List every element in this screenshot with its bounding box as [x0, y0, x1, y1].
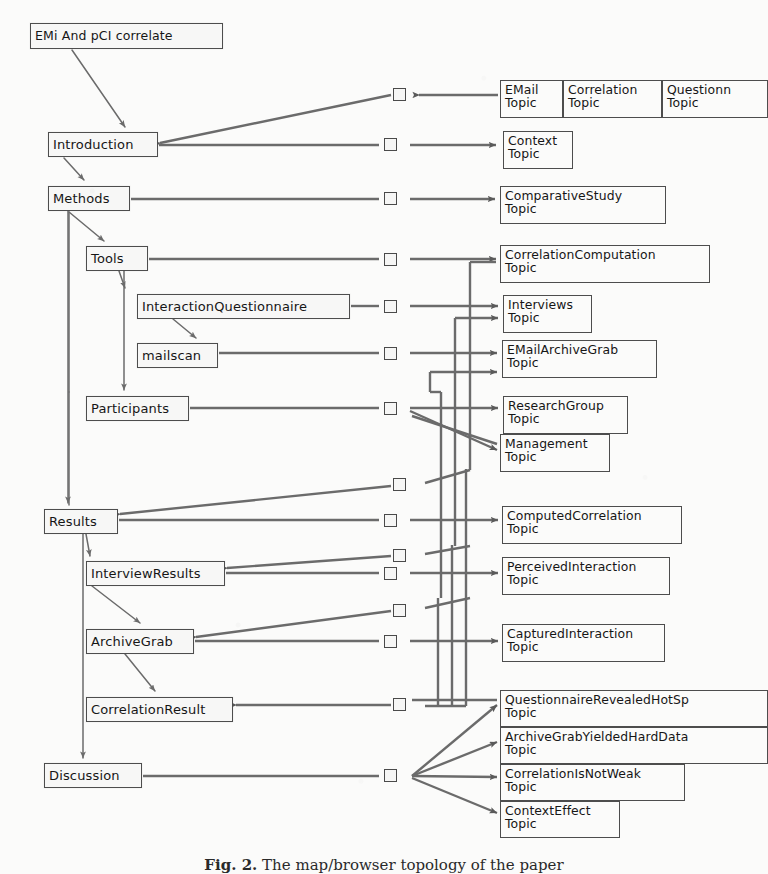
topic-context-effect[interactable]: ContextEffect Topic [500, 801, 620, 838]
topic-questionnaire-revealed-hotspot-kind: Topic [505, 707, 767, 719]
topic-research-group-kind: Topic [508, 413, 627, 425]
topic-questionnaire-revealed-hotspot-name: QuestionnaireRevealedHotSp [505, 694, 767, 706]
node-results[interactable]: Results [44, 509, 118, 534]
figure-caption-text: The map/browser topology of the paper [262, 856, 564, 874]
port-results-in[interactable] [393, 478, 406, 491]
topic-correlation[interactable]: Correlation Topic [563, 80, 662, 118]
topic-computed-correlation-kind: Topic [507, 523, 681, 535]
topic-management[interactable]: Management Topic [500, 434, 610, 472]
topic-captured-interaction[interactable]: CapturedInteraction Topic [502, 624, 665, 662]
port-introduction-out[interactable] [384, 138, 397, 151]
topic-email-kind: Topic [505, 97, 562, 109]
topic-comparative-study-kind: Topic [505, 203, 665, 215]
node-interaction-questionnaire-label: InteractionQuestionnaire [142, 300, 307, 314]
topic-correlation-kind: Topic [568, 97, 661, 109]
node-mailscan-label: mailscan [142, 349, 201, 363]
topic-interviews[interactable]: Interviews Topic [503, 295, 592, 333]
node-correlation-result-label: CorrelationResult [91, 703, 205, 717]
port-participants-out[interactable] [384, 402, 397, 415]
port-mailscan-out[interactable] [384, 347, 397, 360]
port-interactionq-out[interactable] [384, 300, 397, 313]
port-methods-out[interactable] [384, 192, 397, 205]
node-tools[interactable]: Tools [86, 246, 148, 271]
topic-questionnaire-revealed-hotspot[interactable]: QuestionnaireRevealedHotSp Topic [500, 690, 768, 727]
port-tools-out[interactable] [384, 253, 397, 266]
topic-correlation-computation[interactable]: CorrelationComputation Topic [500, 245, 710, 283]
node-introduction[interactable]: Introduction [48, 132, 158, 157]
topic-context-kind: Topic [508, 148, 572, 160]
node-root-label: EMi And pCI correlate [35, 29, 173, 42]
node-introduction-label: Introduction [53, 138, 134, 152]
node-root[interactable]: EMi And pCI correlate [30, 23, 223, 49]
node-interview-results[interactable]: InterviewResults [86, 561, 225, 586]
topic-archive-grab-yielded-hard-data[interactable]: ArchiveGrabYieldedHardData Topic [500, 727, 768, 764]
topic-management-kind: Topic [505, 451, 609, 463]
port-corrresult-in[interactable] [393, 698, 406, 711]
topic-context[interactable]: Context Topic [503, 131, 573, 169]
topic-computed-correlation[interactable]: ComputedCorrelation Topic [502, 506, 682, 544]
port-archive-in[interactable] [393, 604, 406, 617]
node-methods[interactable]: Methods [48, 186, 130, 211]
topic-email-archive-grab[interactable]: EMailArchiveGrab Topic [502, 340, 657, 378]
topic-interviews-kind: Topic [508, 312, 591, 324]
node-participants[interactable]: Participants [86, 396, 189, 421]
port-iresults-out[interactable] [384, 567, 397, 580]
topic-research-group[interactable]: ResearchGroup Topic [503, 396, 628, 434]
topic-correlation-is-not-weak[interactable]: CorrelationIsNotWeak Topic [500, 764, 685, 801]
port-iresults-in[interactable] [393, 549, 406, 562]
port-archive-out[interactable] [384, 635, 397, 648]
topic-context-effect-kind: Topic [505, 818, 619, 830]
node-correlation-result[interactable]: CorrelationResult [86, 697, 233, 722]
topic-email[interactable]: EMail Topic [500, 80, 563, 118]
topic-comparative-study[interactable]: ComparativeStudy Topic [500, 186, 666, 224]
node-archive-grab[interactable]: ArchiveGrab [86, 629, 194, 654]
figure-caption-label: Fig. 2. [204, 856, 257, 874]
topic-questionnaire-kind: Topic [667, 97, 767, 109]
topic-archive-grab-yielded-hard-data-name: ArchiveGrabYieldedHardData [505, 731, 767, 743]
node-results-label: Results [49, 515, 97, 529]
node-tools-label: Tools [91, 252, 124, 266]
topic-email-archive-grab-kind: Topic [507, 357, 656, 369]
node-discussion-label: Discussion [49, 769, 120, 783]
figure-caption: Fig. 2. The map/browser topology of the … [0, 856, 768, 874]
node-interview-results-label: InterviewResults [91, 567, 201, 581]
topic-questionnaire[interactable]: Questionn Topic [662, 80, 768, 118]
topic-correlation-is-not-weak-kind: Topic [505, 781, 684, 793]
port-introduction-in[interactable] [393, 88, 406, 101]
port-discussion-out[interactable] [384, 769, 397, 782]
topic-archive-grab-yielded-hard-data-kind: Topic [505, 744, 767, 756]
node-interaction-questionnaire[interactable]: InteractionQuestionnaire [137, 294, 350, 319]
node-participants-label: Participants [91, 402, 169, 416]
topic-captured-interaction-kind: Topic [507, 641, 664, 653]
topic-correlation-computation-kind: Topic [505, 262, 709, 274]
node-methods-label: Methods [53, 192, 110, 206]
node-discussion[interactable]: Discussion [44, 763, 142, 788]
node-archive-grab-label: ArchiveGrab [91, 635, 173, 649]
topic-perceived-interaction-kind: Topic [507, 574, 669, 586]
topic-perceived-interaction[interactable]: PerceivedInteraction Topic [502, 557, 670, 595]
node-mailscan[interactable]: mailscan [137, 343, 218, 368]
port-results-out[interactable] [384, 514, 397, 527]
